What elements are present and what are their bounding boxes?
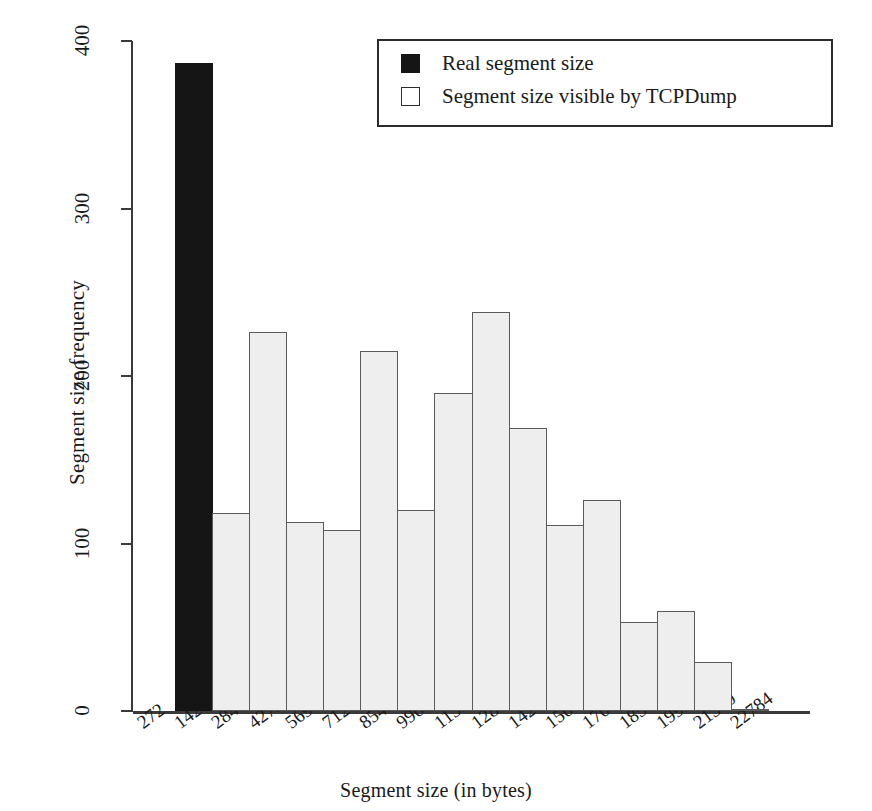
- histogram-bar: [694, 662, 732, 711]
- x-axis-tick-label: 272: [133, 699, 169, 734]
- histogram-bar: [434, 393, 472, 711]
- y-axis-tick-label: 0: [70, 681, 95, 741]
- histogram-bar: [509, 428, 547, 711]
- histogram-bar: [472, 312, 510, 711]
- plot-area: [175, 41, 768, 711]
- y-axis-tick-label: 300: [70, 178, 95, 238]
- chart-legend: Real segment size Segment size visible b…: [377, 39, 833, 127]
- histogram-bar: [583, 500, 621, 711]
- histogram-bar: [657, 611, 695, 712]
- histogram-bar: [546, 525, 584, 711]
- x-axis-title: Segment size (in bytes): [0, 779, 872, 802]
- legend-label-real: Real segment size: [442, 53, 594, 74]
- y-axis-tick-label: 400: [70, 11, 95, 71]
- histogram-bar: [323, 530, 361, 711]
- y-axis-tick-label: 100: [70, 513, 95, 573]
- legend-item-visible-segment-size: Segment size visible by TCPDump: [401, 86, 737, 107]
- legend-swatch-visible-icon: [401, 87, 420, 106]
- y-axis-tick: [121, 543, 132, 545]
- y-axis-tick: [121, 375, 132, 377]
- y-axis-tick: [121, 710, 132, 712]
- y-axis-tick: [121, 40, 132, 42]
- histogram-bar: [175, 63, 213, 711]
- histogram-bar: [249, 332, 287, 711]
- segment-size-histogram: Segment size frequency 0100200300400 272…: [0, 0, 872, 811]
- histogram-bar: [286, 522, 324, 711]
- histogram-bar: [620, 622, 658, 711]
- histogram-bar: [360, 351, 398, 711]
- legend-swatch-real-icon: [401, 54, 420, 73]
- y-axis-tick-label: 200: [70, 346, 95, 406]
- y-axis-tick: [121, 208, 132, 210]
- histogram-bar: [397, 510, 435, 711]
- legend-label-visible: Segment size visible by TCPDump: [442, 86, 737, 107]
- histogram-bar: [212, 513, 250, 711]
- legend-item-real-segment-size: Real segment size: [401, 53, 594, 74]
- histogram-bar: [731, 709, 769, 711]
